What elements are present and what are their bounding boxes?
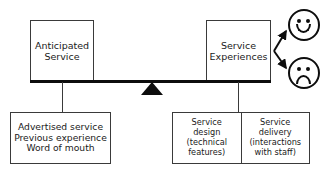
- sad-eye-left: [297, 67, 301, 71]
- smiley-sad-icon: [288, 57, 320, 89]
- happy-mouth: [296, 24, 311, 33]
- happy-eye-left: [297, 19, 301, 23]
- sad-eye-right: [306, 67, 310, 71]
- service-quality-seesaw-diagram: Anticipated Service Service Experiences …: [0, 0, 328, 178]
- smiley-happy-icon: [288, 9, 320, 41]
- sad-mouth: [296, 75, 311, 84]
- happy-eye-right: [306, 19, 310, 23]
- outcome-arrows: [0, 0, 328, 178]
- arrow-to-happy-face: [274, 31, 286, 51]
- arrow-to-sad-face: [274, 51, 286, 68]
